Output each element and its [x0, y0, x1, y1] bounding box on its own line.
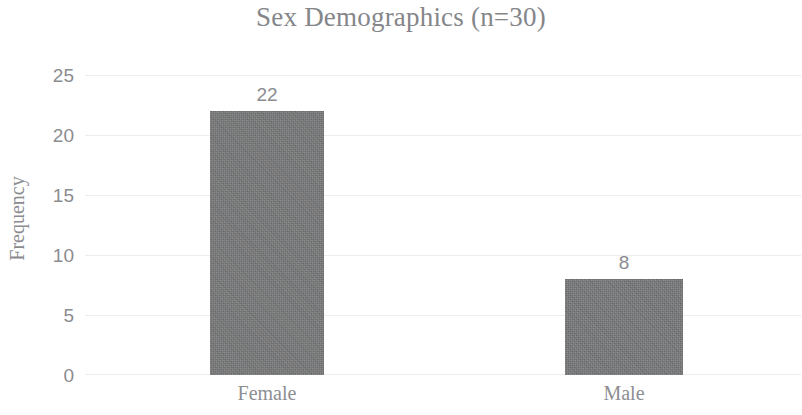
x-tick-label-female: Female: [210, 383, 324, 403]
gridline: [85, 315, 801, 316]
y-tick-label: 0: [14, 366, 74, 385]
y-tick-label: 5: [14, 306, 74, 325]
bar-value-label-female: 22: [210, 85, 324, 104]
gridline: [85, 135, 801, 136]
y-axis-tick-labels: 25 20 15 10 5 0: [10, 75, 74, 375]
y-tick-label: 25: [14, 66, 74, 85]
x-tick-label-male: Male: [565, 383, 683, 403]
bar-female[interactable]: [210, 111, 324, 375]
plot-area: 22 8: [85, 75, 801, 375]
chart-title: Sex Demographics (n=30): [0, 2, 802, 33]
y-tick-label: 10: [14, 246, 74, 265]
gridline: [85, 75, 801, 76]
bar-male[interactable]: [565, 279, 683, 375]
axis-line-x: [85, 374, 801, 375]
y-tick-label: 15: [14, 186, 74, 205]
gridline: [85, 195, 801, 196]
gridline: [85, 255, 801, 256]
bar-chart: Sex Demographics (n=30) Frequency 25 20 …: [0, 0, 802, 415]
bar-value-label-male: 8: [565, 253, 683, 272]
y-tick-label: 20: [14, 126, 74, 145]
